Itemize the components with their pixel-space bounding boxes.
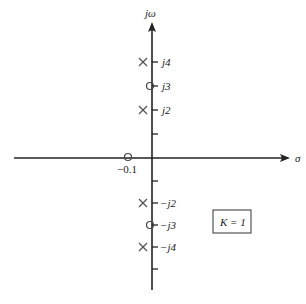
tick-label-j2: j2	[160, 104, 171, 116]
axis-ticks	[152, 62, 158, 269]
tick-label-j4: j4	[160, 56, 171, 68]
pole-x-icon	[139, 243, 147, 251]
pole-x-icon	[139, 58, 147, 66]
tick-label-j3: j3	[160, 80, 171, 92]
jomega-label: jω	[143, 7, 156, 19]
sigma-label: σ	[295, 152, 301, 164]
tick-label-neg-j2: −j2	[160, 197, 176, 209]
pole-x-icon	[139, 106, 147, 114]
gain-label: K = 1	[219, 216, 246, 228]
zero-label-neg-0-1: −0.1	[117, 163, 137, 175]
pole-x-icon	[139, 199, 147, 207]
pole-zero-plot: σ jω j4 j3 j2 −j2 −j3 −j4 −0.1 K = 1	[0, 0, 306, 304]
tick-label-neg-j3: −j3	[160, 219, 176, 231]
tick-label-neg-j4: −j4	[160, 241, 176, 253]
pole-markers	[139, 58, 147, 251]
zero-circle-icon	[125, 154, 132, 161]
